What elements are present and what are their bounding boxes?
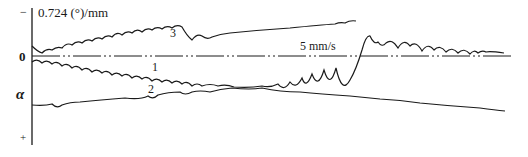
tick-zero: 0 <box>19 50 26 63</box>
tick-plus: + <box>20 132 26 143</box>
curve-1 <box>32 36 504 88</box>
curve-3-label: 3 <box>170 27 176 39</box>
curve-2-label: 2 <box>148 83 154 95</box>
axis-symbol-alpha: α <box>16 87 24 102</box>
tick-minus: − <box>20 6 27 18</box>
scale-label: 0.724 (°)/mm <box>38 6 108 19</box>
curve-1-label: 1 <box>152 61 158 73</box>
curve-2 <box>32 88 505 111</box>
speed-label: 5 mm/s <box>300 40 336 52</box>
figure-canvas <box>0 0 528 157</box>
